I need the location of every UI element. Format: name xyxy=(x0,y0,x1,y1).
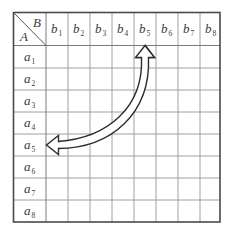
svg-text:b: b xyxy=(117,21,124,36)
svg-text:1: 1 xyxy=(32,57,36,66)
svg-text:a: a xyxy=(24,93,31,108)
corner-label-b: B xyxy=(33,15,41,30)
row-header-a4: a4 xyxy=(24,115,36,132)
column-header-b5: b5 xyxy=(139,21,151,38)
svg-text:b: b xyxy=(183,21,190,36)
double-headed-arrow-icon xyxy=(47,45,155,155)
corner-diagonal xyxy=(14,13,47,46)
row-header-a5: a5 xyxy=(24,137,36,154)
column-header-b8: b8 xyxy=(205,21,217,38)
column-header-b3: b3 xyxy=(95,21,107,38)
svg-text:a: a xyxy=(24,203,31,218)
svg-text:4: 4 xyxy=(125,29,129,38)
svg-text:a: a xyxy=(24,159,31,174)
svg-text:7: 7 xyxy=(32,189,36,198)
row-header-a2: a2 xyxy=(24,71,36,88)
row-header-a6: a6 xyxy=(24,159,36,176)
svg-text:8: 8 xyxy=(213,29,217,38)
svg-text:4: 4 xyxy=(32,123,36,132)
column-header-b7: b7 xyxy=(183,21,195,38)
column-header-b4: b4 xyxy=(117,21,129,38)
svg-text:b: b xyxy=(51,21,58,36)
svg-text:b: b xyxy=(73,21,80,36)
svg-text:3: 3 xyxy=(103,29,107,38)
row-header-a7: a7 xyxy=(24,181,36,198)
svg-text:5: 5 xyxy=(32,145,36,154)
row-header-a3: a3 xyxy=(24,93,36,110)
column-header-b1: b1 xyxy=(51,21,63,38)
svg-text:b: b xyxy=(139,21,146,36)
svg-text:a: a xyxy=(24,115,31,130)
column-header-b6: b6 xyxy=(161,21,173,38)
svg-text:a: a xyxy=(24,71,31,86)
svg-text:b: b xyxy=(205,21,212,36)
svg-text:a: a xyxy=(24,137,31,152)
row-header-a1: a1 xyxy=(24,49,36,66)
svg-text:3: 3 xyxy=(32,101,36,110)
svg-text:1: 1 xyxy=(59,29,63,38)
svg-text:a: a xyxy=(24,181,31,196)
corner-label-a: A xyxy=(19,29,28,44)
svg-text:5: 5 xyxy=(147,29,151,38)
svg-text:2: 2 xyxy=(32,79,36,88)
relation-table-diagram: B A b1 b2 b3 b4 b5 b6 b7 b8 a1 a2 a3 a4 … xyxy=(0,0,233,235)
svg-text:a: a xyxy=(24,49,31,64)
svg-text:6: 6 xyxy=(32,167,36,176)
svg-text:b: b xyxy=(95,21,102,36)
column-header-b2: b2 xyxy=(73,21,85,38)
svg-text:2: 2 xyxy=(81,29,85,38)
row-header-a8: a8 xyxy=(24,203,36,220)
svg-text:8: 8 xyxy=(32,211,36,220)
svg-text:b: b xyxy=(161,21,168,36)
svg-text:6: 6 xyxy=(169,29,173,38)
svg-text:7: 7 xyxy=(191,29,195,38)
